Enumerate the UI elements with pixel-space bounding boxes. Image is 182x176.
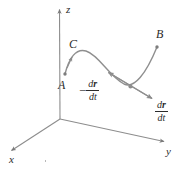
minus-sign: − <box>79 84 86 98</box>
negative-derivative-fraction: dr dt <box>87 79 98 102</box>
negative-derivative-label: − dr dt <box>79 79 98 102</box>
positive-derivative-vector <box>109 73 153 99</box>
positive-derivative-denominator: dt <box>155 111 168 123</box>
z-axis <box>60 10 61 120</box>
point-c-label: C <box>69 38 77 50</box>
negative-derivative-denominator: dt <box>86 90 99 102</box>
y-axis <box>60 119 164 142</box>
positive-derivative-label: dr dt <box>156 100 167 123</box>
scan-speck <box>45 160 46 162</box>
point-b-dot <box>155 45 158 48</box>
point-b-label: B <box>156 28 163 40</box>
positive-derivative-fraction: dr dt <box>156 100 167 123</box>
x-axis <box>12 119 61 151</box>
curve-direction-arrow <box>67 57 72 68</box>
vector-calculus-figure: z y x A B C − dr dt dr dt <box>0 0 182 176</box>
positive-derivative-numerator: dr <box>156 100 167 111</box>
point-a-label: A <box>58 79 65 91</box>
y-axis-label: y <box>166 146 171 157</box>
x-axis-label: x <box>9 154 14 165</box>
point-a-dot <box>63 72 66 75</box>
negative-derivative-numerator: dr <box>87 79 98 90</box>
z-axis-label: z <box>66 4 70 15</box>
